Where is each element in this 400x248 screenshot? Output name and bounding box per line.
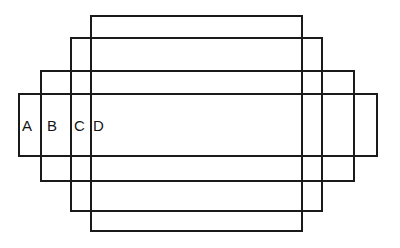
rectangle-label-d: D — [93, 118, 104, 133]
rectangle-d — [90, 15, 303, 232]
rectangle-label-c: C — [74, 118, 85, 133]
rectangle-label-a: A — [22, 118, 32, 133]
rectangle-label-b: B — [47, 118, 57, 133]
diagram-canvas: A B C D — [0, 0, 400, 248]
